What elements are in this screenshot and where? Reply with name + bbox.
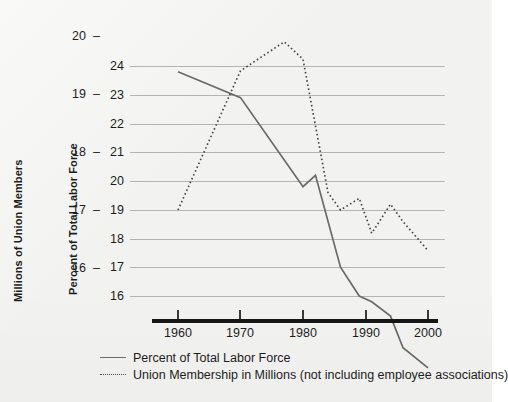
x-axis-label-1960: 1960	[155, 326, 201, 340]
right-axis-tick-20: 20	[102, 174, 124, 188]
right-axis-tick-18: 18	[102, 232, 124, 246]
x-tick-1990	[365, 310, 367, 319]
gridline-17	[130, 267, 445, 268]
series-line-union-membership-millions	[178, 42, 428, 251]
legend-label-millions: Union Membership in Millions (not includ…	[133, 368, 508, 382]
x-tick-1960	[177, 310, 179, 319]
legend-dotted-line-icon	[100, 370, 126, 380]
x-axis-label-1980: 1980	[280, 326, 326, 340]
chart-legend: Percent of Total Labor Force Union Membe…	[100, 349, 508, 383]
x-axis-label-1990: 1990	[343, 326, 389, 340]
right-axis-tick-21: 21	[102, 145, 124, 159]
gridline-20	[130, 181, 445, 182]
legend-solid-line-icon	[100, 353, 126, 363]
legend-item-millions: Union Membership in Millions (not includ…	[100, 366, 508, 383]
left-axis-title: Millions of Union Members	[12, 160, 24, 302]
left-axis-tick-18: 18	[60, 145, 86, 159]
right-axis-tick-16: 16	[102, 289, 124, 303]
right-axis-tick-22: 22	[102, 117, 124, 131]
left-axis-tick-dash-17: –	[93, 203, 100, 217]
x-tick-1980	[302, 310, 304, 319]
left-axis-tick-dash-16: –	[93, 261, 100, 275]
left-axis-tick-dash-18: –	[93, 145, 100, 159]
right-axis-tick-24: 24	[102, 59, 124, 73]
right-axis-tick-17: 17	[102, 260, 124, 274]
gridline-19	[130, 210, 445, 211]
x-axis-label-2000: 2000	[405, 326, 451, 340]
x-axis-label-1970: 1970	[217, 326, 263, 340]
gridline-21	[130, 152, 445, 153]
left-axis-tick-17: 17	[60, 203, 86, 217]
gridline-22	[130, 124, 445, 125]
gridline-24	[130, 66, 445, 67]
series-line-percent-of-total-labor-force	[178, 72, 428, 368]
left-axis-tick-16: 16	[60, 261, 86, 275]
left-axis-tick-19: 19	[60, 87, 86, 101]
x-axis-bar	[152, 319, 438, 323]
left-axis-tick-20: 20	[60, 29, 86, 43]
left-axis-tick-dash-20: –	[93, 29, 100, 43]
gridline-23	[130, 95, 445, 96]
x-tick-1970	[239, 310, 241, 319]
gridline-16	[130, 296, 445, 297]
left-axis-tick-dash-19: –	[93, 87, 100, 101]
right-axis-tick-19: 19	[102, 203, 124, 217]
x-tick-2000	[427, 310, 429, 319]
right-axis-tick-23: 23	[102, 88, 124, 102]
gridline-18	[130, 239, 445, 240]
legend-item-percent: Percent of Total Labor Force	[100, 349, 508, 366]
legend-label-percent: Percent of Total Labor Force	[133, 351, 291, 365]
